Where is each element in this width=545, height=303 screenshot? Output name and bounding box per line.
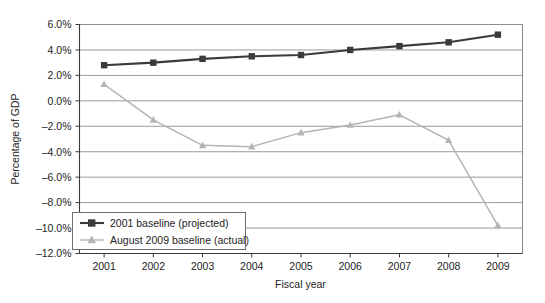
y-axis-tick-label: –2.0% xyxy=(42,120,72,132)
y-axis-tick-label: –12.0% xyxy=(36,247,72,259)
y-axis-title: Percentage of GDP xyxy=(9,93,21,184)
legend-marker-square-icon xyxy=(88,219,95,226)
y-axis-tick-label: –8.0% xyxy=(42,196,72,208)
y-axis-tick-label: –4.0% xyxy=(42,146,72,158)
x-axis-tick-label: 2004 xyxy=(240,260,264,272)
y-axis-tick-label: –10.0% xyxy=(36,222,72,234)
chart-legend: 2001 baseline (projected) August 2009 ba… xyxy=(73,213,249,250)
x-axis-title: Fiscal year xyxy=(275,278,326,290)
data-point-marker-square xyxy=(150,59,156,65)
data-point-marker-square xyxy=(347,47,353,53)
y-axis-tick-label: 6.0% xyxy=(48,18,72,30)
x-axis-tick-label: 2007 xyxy=(388,260,412,272)
data-point-marker-square xyxy=(396,43,402,49)
gdp-line-chart: 6.0%4.0%2.0%0.0%–2.0%–4.0%–6.0%–8.0%–10.… xyxy=(0,0,545,303)
data-point-marker-square xyxy=(298,52,304,58)
y-axis-tick-label: 2.0% xyxy=(48,69,72,81)
x-axis-tick-labels: 200120022003200420052006200720082009 xyxy=(92,260,509,272)
legend-label-august-2009-baseline: August 2009 baseline (actual) xyxy=(110,234,249,246)
x-axis-tick-label: 2003 xyxy=(191,260,215,272)
x-axis-tick-label: 2001 xyxy=(92,260,116,272)
x-axis-tick-label: 2006 xyxy=(339,260,363,272)
y-axis-tick-label: –6.0% xyxy=(42,171,72,183)
data-point-marker-square xyxy=(445,39,451,45)
x-axis-tick-label: 2008 xyxy=(437,260,461,272)
x-axis-tick-label: 2002 xyxy=(142,260,166,272)
y-axis-tick-label: 0.0% xyxy=(48,95,72,107)
data-point-marker-square xyxy=(199,56,205,62)
data-point-marker-square xyxy=(249,53,255,59)
data-point-marker-square xyxy=(495,31,501,37)
x-axis-tick-label: 2005 xyxy=(289,260,313,272)
data-point-marker-square xyxy=(101,62,107,68)
legend-label-2001-baseline: 2001 baseline (projected) xyxy=(110,217,229,229)
chart-figure: 6.0%4.0%2.0%0.0%–2.0%–4.0%–6.0%–8.0%–10.… xyxy=(0,0,545,303)
y-axis-tick-label: 4.0% xyxy=(48,44,72,56)
x-axis-tick-label: 2009 xyxy=(486,260,510,272)
